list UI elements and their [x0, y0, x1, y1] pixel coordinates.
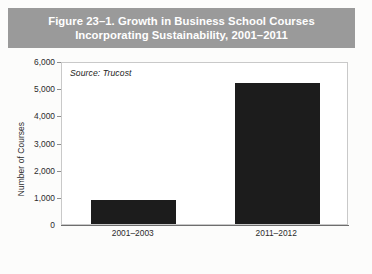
x-axis-tick-labels: 2001–20032011–2012 — [61, 228, 348, 244]
y-axis-tick-labels: 01,0002,0003,0004,0005,0006,000 — [18, 62, 55, 225]
y-axis-tick-label: 1,000 — [18, 193, 55, 203]
bar — [91, 200, 176, 224]
plot-area: Source: Trucost — [61, 62, 348, 225]
y-axis-tick-label: 4,000 — [18, 111, 55, 121]
y-axis-tick-label: 0 — [18, 220, 55, 230]
x-axis-line — [61, 225, 349, 226]
y-axis-tick-label: 2,000 — [18, 166, 55, 176]
figure-container: Figure 23–1. Growth in Business School C… — [0, 0, 372, 274]
figure-title: Figure 23–1. Growth in Business School C… — [48, 14, 315, 42]
y-axis-tick-label: 6,000 — [18, 57, 55, 67]
x-axis-tick-label: 2001–2003 — [112, 228, 154, 238]
chart: Number of Courses 01,0002,0003,0004,0005… — [0, 50, 372, 274]
bar — [235, 83, 320, 224]
figure-title-banner: Figure 23–1. Growth in Business School C… — [8, 8, 355, 48]
source-note: Source: Trucost — [70, 68, 132, 78]
y-axis-tick-label: 5,000 — [18, 84, 55, 94]
x-axis-tick-label: 2011–2012 — [256, 228, 297, 238]
y-axis-tick-label: 3,000 — [18, 139, 55, 149]
